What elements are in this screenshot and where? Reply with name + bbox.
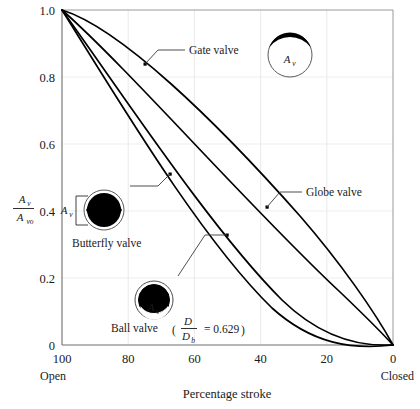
y-tick-label-0: 0 bbox=[49, 339, 55, 353]
butterfly-valve-icon-area-label: A bbox=[60, 204, 68, 216]
y-axis-title-numerator: A bbox=[18, 193, 26, 205]
x-tick-label-80: 80 bbox=[122, 352, 135, 366]
x-axis-title: Percentage stroke bbox=[183, 387, 272, 401]
ball-valve-formula-paren-close: ) bbox=[241, 324, 245, 337]
ball-valve-formula-denominator-sub: b bbox=[191, 336, 195, 345]
x-tick-label-40: 40 bbox=[254, 352, 267, 366]
valve-flow-area-chart-figure: 1.0 0.8 0.6 0.4 0.2 0 100 80 60 40 20 0 … bbox=[0, 0, 420, 409]
ball-valve-formula-numerator: D bbox=[183, 315, 192, 327]
annotation-label-globe-valve: Globe valve bbox=[306, 186, 362, 198]
annotation-label-gate-valve: Gate valve bbox=[189, 44, 239, 56]
ball-valve-formula-value: = 0.629 bbox=[204, 323, 239, 335]
annotation-label-ball-valve: Ball valve bbox=[111, 322, 158, 334]
y-tick-label-0.4: 0.4 bbox=[39, 205, 55, 219]
y-tick-label-0.2: 0.2 bbox=[39, 272, 55, 286]
y-axis-title-denominator-sub: vo bbox=[26, 217, 33, 226]
ball-valve-icon: A v bbox=[135, 281, 173, 320]
x-axis-open-label: Open bbox=[40, 369, 66, 383]
ball-valve-icon-area-label: A bbox=[147, 301, 155, 313]
y-tick-label-1.0: 1.0 bbox=[39, 4, 55, 18]
y-tick-label-0.8: 0.8 bbox=[39, 71, 55, 85]
butterfly-valve-icon-core bbox=[87, 193, 121, 227]
x-axis-closed-label: Closed bbox=[381, 369, 414, 383]
gate-valve-icon: A v bbox=[268, 33, 312, 77]
y-tick-label-0.6: 0.6 bbox=[39, 138, 55, 152]
y-axis-title-denominator: A bbox=[16, 211, 24, 223]
chart-svg: 1.0 0.8 0.6 0.4 0.2 0 100 80 60 40 20 0 … bbox=[0, 0, 420, 409]
x-tick-label-20: 20 bbox=[321, 352, 334, 366]
x-tick-label-60: 60 bbox=[188, 352, 201, 366]
ball-valve-formula-paren-open: ( bbox=[172, 324, 176, 337]
ball-valve-formula-denominator: D bbox=[181, 330, 190, 342]
x-tick-label-100: 100 bbox=[53, 352, 72, 366]
gate-valve-icon-area-label: A bbox=[283, 53, 291, 65]
x-tick-label-0: 0 bbox=[390, 352, 396, 366]
annotation-label-butterfly-valve: Butterfly valve bbox=[72, 237, 141, 250]
